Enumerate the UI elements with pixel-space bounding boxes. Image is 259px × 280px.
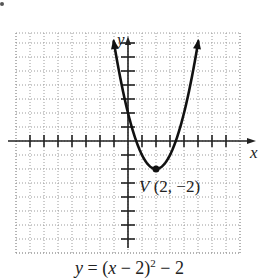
eq-y: y [75, 258, 83, 278]
vertex-coords: (2, −2) [149, 177, 200, 196]
eq-inner: − 2) [116, 258, 150, 278]
graph-canvas [0, 0, 259, 280]
x-axis-label: x [250, 143, 258, 163]
vertex-v: V [139, 177, 149, 196]
eq-tail: − 2 [156, 258, 184, 278]
vertex-label: V (2, −2) [139, 177, 200, 197]
y-axis-label: y [117, 30, 125, 50]
eq-mid: = ( [83, 258, 108, 278]
equation-caption: y = (x − 2)2 − 2 [0, 257, 259, 279]
eq-x: x [108, 258, 116, 278]
axes [8, 36, 256, 248]
